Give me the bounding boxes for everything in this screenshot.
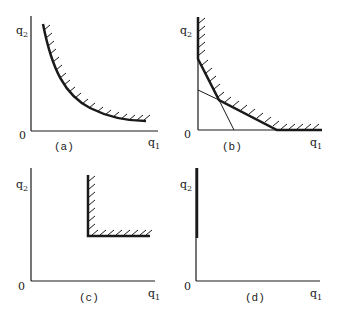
- origin-label: 0: [184, 128, 191, 141]
- y-axis-label: q2: [16, 178, 28, 193]
- hatching: [44, 25, 150, 120]
- x-axis-label: q1: [148, 287, 160, 302]
- panel-caption: (a): [54, 141, 74, 153]
- isoquant-curve: [43, 24, 146, 121]
- origin-label: 0: [184, 280, 191, 293]
- origin-label: 0: [18, 280, 25, 293]
- y-axis-label: q2: [180, 24, 192, 39]
- panel-d: q2 0 q1 (d): [180, 168, 322, 304]
- isoquant-l-shape: [88, 175, 150, 236]
- hatching: [199, 18, 319, 129]
- panel-caption: (b): [222, 141, 242, 153]
- panel-caption: (d): [245, 292, 265, 304]
- panel-caption: (c): [79, 292, 99, 304]
- isoquant-kinked: [198, 17, 322, 130]
- hatching: [89, 176, 152, 235]
- isoquant-figure: q2 0 q1 (a): [0, 0, 341, 317]
- x-axis-label: q1: [148, 136, 160, 151]
- panel-b: q2 0 q1 (b): [180, 17, 322, 153]
- origin-label: 0: [19, 129, 26, 142]
- x-axis-label: q1: [310, 136, 322, 151]
- panel-a: q2 0 q1 (a): [16, 16, 160, 153]
- y-axis-label: q2: [16, 24, 28, 39]
- x-axis-label: q1: [310, 287, 322, 302]
- panel-c: q2 0 q1 (c): [16, 168, 160, 304]
- y-axis-label: q2: [180, 178, 192, 193]
